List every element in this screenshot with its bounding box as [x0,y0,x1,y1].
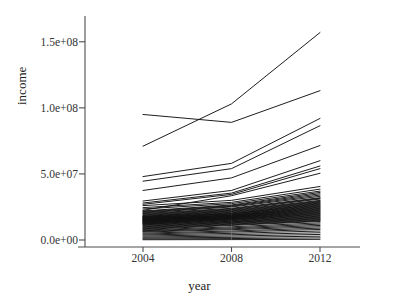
x-tick-label: 2012 [290,252,350,264]
x-axis-title: year [0,278,399,294]
series-line [143,91,320,123]
series-layer [143,33,320,240]
series-line [143,146,320,191]
chart-container: 0.0e+005.0e+071.0e+081.5e+08 20042008201… [0,0,399,303]
series-line [143,118,320,176]
y-tick-label: 1.5e+08 [16,36,78,48]
y-axis-tickmarks [79,42,85,240]
x-tick-label: 2008 [202,252,262,264]
series-line [143,33,320,147]
y-tick-label: 0.0e+00 [16,234,78,246]
y-axis-tick-labels: 0.0e+005.0e+071.0e+081.5e+08 [16,0,78,303]
x-tick-label: 2004 [113,252,173,264]
y-tick-label: 5.0e+07 [16,168,78,180]
y-axis-title: income [14,67,30,105]
